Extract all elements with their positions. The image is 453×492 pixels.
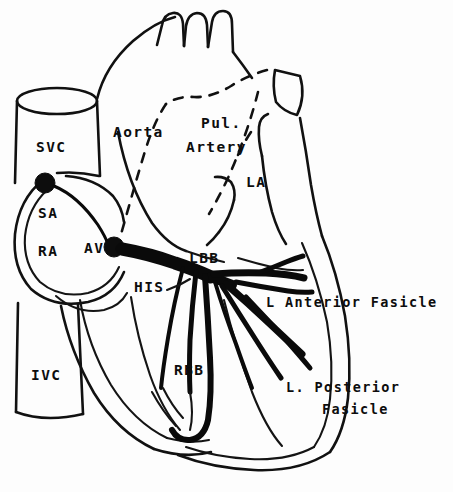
label-left-posterior-fasicle-line1: L. Posterior (286, 379, 400, 395)
label-pulmonary-artery-line2: Artery (186, 139, 247, 155)
left-atrial-appendage (274, 70, 303, 115)
label-sa-node: SA (38, 205, 58, 221)
label-ivc: IVC (31, 367, 61, 383)
sa-node-marker (35, 173, 55, 193)
label-la: LA (246, 174, 266, 190)
label-pulmonary-artery-line1: Pul. (201, 115, 242, 131)
svc-vessel (15, 88, 100, 183)
label-rbb: RBB (174, 362, 204, 378)
label-left-posterior-fasicle-line2: Fasicle (322, 401, 389, 417)
label-svc: SVC (36, 139, 66, 155)
label-left-anterior-fasicle: L Anterior Fasicle (266, 294, 438, 310)
left-anterior-fascicle-branch-3 (236, 282, 312, 292)
label-his: HIS (134, 279, 164, 295)
heart-conduction-diagram: SVC IVC SA RA AV Aorta Pul. Artery LA HI… (0, 0, 453, 492)
internodal-pathway (54, 186, 108, 244)
ivc-vessel (16, 303, 83, 418)
label-ra: RA (38, 243, 58, 259)
heart-anatomy-illustration: SVC IVC SA RA AV Aorta Pul. Artery LA HI… (0, 0, 453, 492)
label-lbb: LBB (189, 250, 219, 266)
label-av-node: AV (84, 240, 104, 256)
label-aorta: Aorta (113, 124, 164, 140)
